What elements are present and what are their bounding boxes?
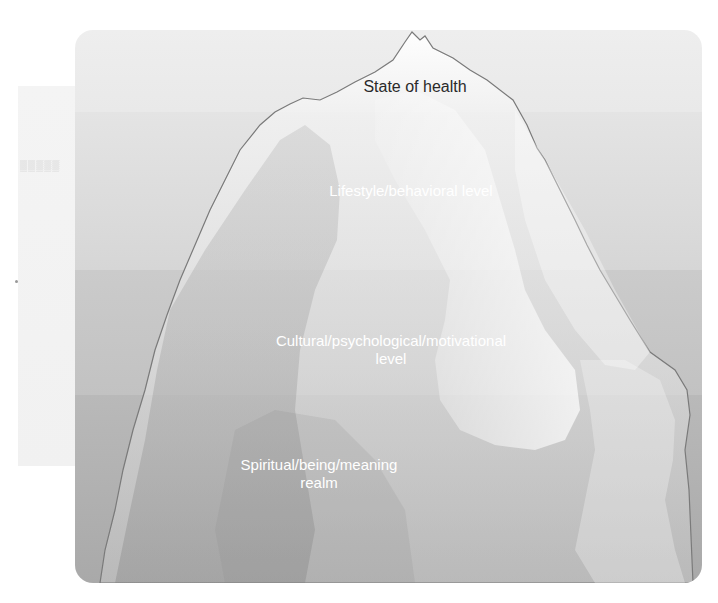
iceberg-shape — [75, 30, 702, 583]
label-spiritual-realm: Spiritual/being/meaning realm — [241, 456, 398, 492]
bleed-through-text-artifact: ▒▒▒▒▒ — [20, 160, 60, 171]
label-state-of-health: State of health — [363, 78, 466, 96]
label-spiritual-line2: realm — [241, 474, 398, 492]
label-cultural-line2: level — [276, 350, 506, 368]
scan-speck — [15, 280, 18, 283]
label-lifestyle-level: Lifestyle/behavioral level — [329, 182, 492, 200]
iceberg-diagram-frame: State of health Lifestyle/behavioral lev… — [75, 30, 702, 583]
page-bleed-through — [18, 86, 80, 466]
label-cultural-level: Cultural/psychological/motivational leve… — [276, 332, 506, 368]
label-cultural-line1: Cultural/psychological/motivational — [276, 332, 506, 350]
label-spiritual-line1: Spiritual/being/meaning — [241, 456, 398, 474]
